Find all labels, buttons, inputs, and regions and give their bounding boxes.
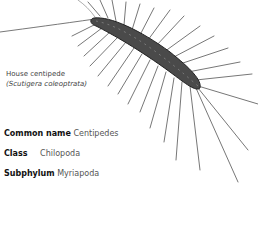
fact-label: Common name	[4, 129, 71, 138]
fact-value: Myriapoda	[57, 169, 99, 178]
fact-label: Class	[4, 149, 28, 158]
scientific-name-caption: (Scutigera coleoptrata)	[6, 79, 87, 89]
species-caption: House centipede (Scutigera coleoptrata)	[6, 69, 87, 89]
fact-subphylum: Subphylum Myriapoda	[4, 168, 119, 186]
fact-class: Class Chilopoda	[4, 148, 119, 168]
common-name-caption: House centipede	[6, 69, 87, 79]
fact-value: Chilopoda	[40, 149, 80, 158]
fact-label: Subphylum	[4, 169, 55, 178]
fact-value: Centipedes	[73, 129, 118, 138]
fact-common-name: Common name Centipedes	[4, 128, 119, 148]
taxonomy-facts: Common name Centipedes Class Chilopoda S…	[4, 128, 119, 186]
